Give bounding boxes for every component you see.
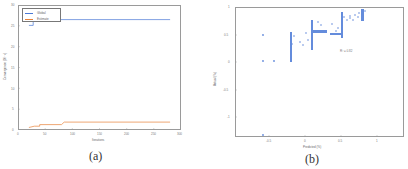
y-tick-label: 0 [228,60,230,64]
y-tick-label: -0.5 [223,88,228,92]
x-tick-label: 200 [124,132,129,136]
y-tick-label: -1 [227,115,230,119]
chart-b-points [205,0,408,169]
chart-a: Global Estimate 0 50 100 150 200 250 300… [0,0,200,169]
chart-a-legend: Global Estimate [22,8,61,22]
y-tick-label: 1 [228,5,230,9]
x-tick-label: 0.5 [338,139,342,143]
x-tick-label: 250 [151,132,156,136]
y-tick-label: 0 [12,128,14,132]
x-tick-label: -0.5 [266,139,271,143]
caption-b: (b) [305,152,319,167]
y-axis-label: Convergence (10⁻²) [3,53,7,80]
x-tick-label: 0 [304,139,306,143]
y-axis-label: Actual (%) [213,72,217,86]
legend-entry-estimate: Estimate [25,17,49,21]
x-tick-label: 150 [97,132,102,136]
series-estimate-line [29,122,170,127]
y-tick-label: 0.5 [224,33,228,37]
chart-a-lines [0,0,200,169]
y-tick-label: 10 [11,87,14,91]
y-tick-label: 20 [11,45,14,49]
x-axis-label: Predicted (%) [303,145,321,149]
legend-swatch-estimate [25,19,33,20]
legend-label-global: Global [37,11,46,15]
legend-entry-global: Global [25,11,46,15]
legend-swatch-global [25,13,33,14]
y-tick-label: 15 [11,66,14,70]
x-tick-label: 50 [43,132,46,136]
y-tick-label: 5 [12,107,14,111]
caption-a: (a) [89,149,102,164]
chart-b: R² = 0.82 -0.5 0 0.5 1 1 0.5 0 -0.5 -1 P… [205,0,408,169]
legend-label-estimate: Estimate [37,17,49,21]
y-tick-label: 25 [11,24,14,28]
x-tick-label: 0 [17,132,19,136]
x-tick-label: 300 [177,132,182,136]
x-axis-label: Iterations [92,138,104,142]
y-tick-label: 30 [11,3,14,7]
r-squared-annotation: R² = 0.82 [340,49,352,53]
x-tick-label: 1 [376,139,378,143]
x-tick-label: 100 [70,132,75,136]
